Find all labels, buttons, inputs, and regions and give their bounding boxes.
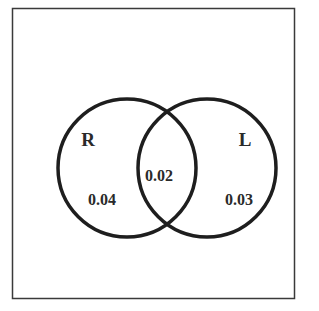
set-r-only-value: 0.04 xyxy=(88,191,116,208)
set-l-only-value: 0.03 xyxy=(225,191,253,208)
frame-border xyxy=(13,9,295,299)
set-r-circle xyxy=(58,99,196,237)
set-r-label: R xyxy=(81,129,95,150)
venn-diagram: R L 0.02 0.04 0.03 xyxy=(0,0,319,311)
set-l-label: L xyxy=(239,129,252,150)
intersection-value: 0.02 xyxy=(145,167,173,184)
